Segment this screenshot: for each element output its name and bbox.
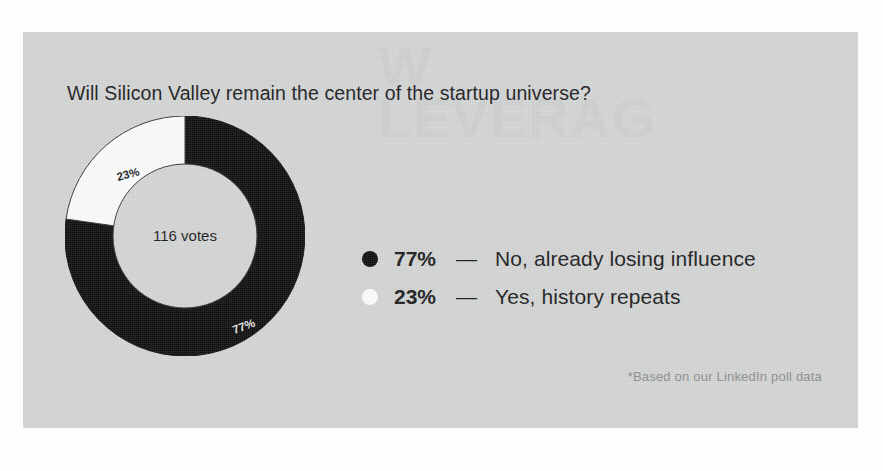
- donut-chart: 116 votes 23% 77%: [65, 116, 305, 356]
- poll-question-title: Will Silicon Valley remain the center of…: [67, 82, 591, 105]
- legend-swatch-yes-icon: [362, 289, 378, 305]
- legend-dash-yes: —: [456, 285, 477, 309]
- legend-label-no: No, already losing influence: [495, 247, 756, 271]
- donut-chart-svg: 116 votes 23% 77%: [65, 116, 305, 356]
- legend-dash-no: —: [456, 247, 477, 271]
- legend-item-no: 77% — No, already losing influence: [362, 240, 756, 278]
- legend-item-yes: 23% — Yes, history repeats: [362, 278, 756, 316]
- source-footnote: *Based on our LinkedIn poll data: [628, 369, 822, 384]
- legend-percent-yes: 23%: [394, 285, 450, 309]
- legend-swatch-no-icon: [362, 251, 378, 267]
- chart-legend: 77% — No, already losing influence 23% —…: [362, 240, 756, 316]
- donut-center-label: 116 votes: [153, 227, 217, 244]
- legend-percent-no: 77%: [394, 247, 450, 271]
- poll-result-card: W LEVERAG Will Silicon Valley remain the…: [23, 32, 858, 428]
- legend-label-yes: Yes, history repeats: [495, 285, 681, 309]
